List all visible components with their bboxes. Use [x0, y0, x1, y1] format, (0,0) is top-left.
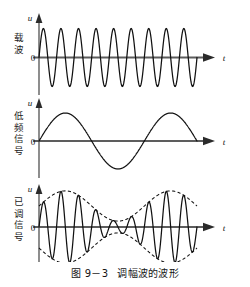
lowfreq-y-axis-arrow-icon [36, 98, 43, 108]
lowfreq-x-axis-arrow-icon [203, 137, 215, 146]
panel-label-modulated-signal: 已调信号 [12, 196, 26, 242]
waveform-diagram: u t 0 u t 0 u t 0 [0, 0, 250, 262]
lowfreq-x-axis-label: t [223, 137, 226, 147]
modulated-x-axis-arrow-icon [203, 223, 215, 232]
carrier-y-axis-label: u [28, 13, 33, 23]
carrier-x-axis-label: t [223, 53, 226, 63]
figure-caption-title: 调幅波的波形 [117, 268, 179, 279]
carrier-y-axis-arrow-icon [36, 13, 43, 23]
carrier-x-axis-arrow-icon [203, 53, 215, 62]
panel-label-carrier: 载波 [12, 32, 26, 55]
figure-caption: 图 9－3调幅波的波形 [0, 265, 250, 280]
figure-caption-number: 图 9－3 [71, 268, 108, 279]
panel-modulated-signal: u t 0 [28, 184, 226, 262]
modulated-y-axis-arrow-icon [36, 184, 43, 194]
figure-container: u t 0 u t 0 u t 0 [0, 0, 250, 287]
lowfreq-y-axis-label: u [28, 98, 33, 108]
carrier-origin-label: 0 [31, 53, 36, 63]
panel-low-frequency-signal: u t 0 [28, 98, 226, 178]
modulated-x-axis-label: t [223, 223, 226, 233]
lowfreq-origin-label: 0 [31, 137, 36, 147]
modulated-origin-label: 0 [31, 223, 36, 233]
panel-carrier: u t 0 [28, 13, 226, 95]
modulated-y-axis-label: u [28, 184, 33, 194]
panel-label-low-frequency-signal: 低频信号 [12, 110, 26, 156]
